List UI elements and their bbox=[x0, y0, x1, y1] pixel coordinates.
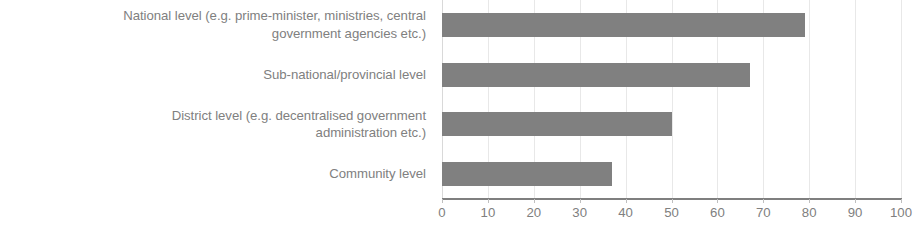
category-label: Community level bbox=[0, 149, 434, 199]
tick-mark bbox=[580, 199, 581, 203]
bar-row bbox=[442, 50, 901, 100]
gridline bbox=[901, 0, 902, 199]
value-tick-label: 30 bbox=[572, 204, 587, 222]
value-tick-label: 40 bbox=[618, 204, 633, 222]
value-tick-label: 10 bbox=[481, 204, 496, 222]
category-label: Sub-national/provincial level bbox=[0, 50, 434, 100]
bar bbox=[442, 63, 750, 87]
value-tick-label: 90 bbox=[848, 204, 863, 222]
tick-mark bbox=[763, 199, 764, 203]
tick-mark bbox=[442, 199, 443, 203]
tick-mark bbox=[855, 199, 856, 203]
tick-mark bbox=[809, 199, 810, 203]
category-label: District level (e.g. decentralised gover… bbox=[0, 100, 434, 150]
bar bbox=[442, 13, 805, 37]
bar-chart: National level (e.g. prime-minister, min… bbox=[0, 0, 918, 237]
value-tick-label: 0 bbox=[438, 204, 445, 222]
category-label: National level (e.g. prime-minister, min… bbox=[0, 0, 434, 50]
tick-mark bbox=[626, 199, 627, 203]
bar bbox=[442, 112, 672, 136]
bar-row bbox=[442, 149, 901, 199]
bar bbox=[442, 162, 612, 186]
value-tick-label: 70 bbox=[756, 204, 771, 222]
value-tick-label: 50 bbox=[664, 204, 679, 222]
tick-mark bbox=[901, 199, 902, 203]
tick-mark bbox=[488, 199, 489, 203]
value-tick-label: 80 bbox=[802, 204, 817, 222]
tick-mark bbox=[672, 199, 673, 203]
category-axis: National level (e.g. prime-minister, min… bbox=[0, 0, 434, 199]
bar-row bbox=[442, 0, 901, 50]
tick-mark bbox=[717, 199, 718, 203]
value-tick-label: 60 bbox=[710, 204, 725, 222]
value-tick-label: 20 bbox=[526, 204, 541, 222]
bar-row bbox=[442, 100, 901, 150]
value-tick-label: 100 bbox=[890, 204, 912, 222]
tick-mark bbox=[534, 199, 535, 203]
plot-area bbox=[442, 0, 901, 199]
value-axis: 0102030405060708090100 bbox=[442, 204, 901, 230]
